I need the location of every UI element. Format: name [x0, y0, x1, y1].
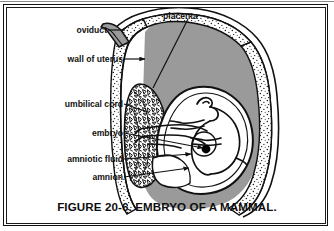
- label-amnion: amnion: [92, 172, 123, 182]
- label-umbilical-cord: umbilical cord: [65, 99, 123, 109]
- diagram-stage: oviduct wall of uterus umbilical cord em…: [7, 8, 325, 223]
- label-wall-of-uterus: wall of uterus: [68, 54, 123, 64]
- figure-container: oviduct wall of uterus umbilical cord em…: [0, 0, 334, 231]
- label-oviduct: oviduct: [76, 25, 107, 35]
- label-embryo: embryo: [92, 128, 123, 138]
- page-rule: [0, 1, 334, 2]
- label-placenta: placenta: [163, 11, 198, 21]
- mammal-embryo-diagram: [7, 8, 325, 223]
- label-amniotic-fluid: amniotic fluid: [67, 154, 123, 164]
- figure-caption: FIGURE 20-6. EMBRYO OF A MAMMAL.: [0, 200, 334, 213]
